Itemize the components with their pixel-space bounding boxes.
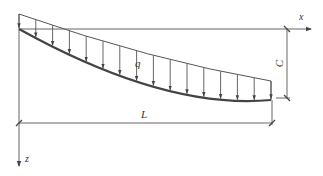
- beam-curve: [19, 29, 271, 101]
- z-axis-label: z: [25, 154, 29, 164]
- span-label: L: [141, 109, 147, 120]
- x-axis-label: x: [299, 12, 303, 22]
- diagram-drawing: [0, 0, 323, 176]
- beam-diagram: x z q L C: [0, 0, 323, 176]
- load-envelope: [19, 14, 271, 81]
- deflection-label: C: [274, 60, 285, 67]
- load-label: q: [135, 58, 141, 69]
